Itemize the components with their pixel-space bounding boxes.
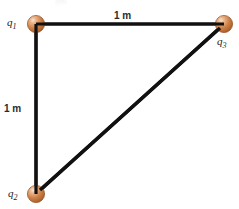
charge-label-q1: q1 bbox=[7, 17, 17, 31]
charge-label-q2: q2 bbox=[8, 188, 18, 202]
edge-overlay-q2-q3 bbox=[40, 28, 220, 190]
charge-label-q3-subscript: 3 bbox=[223, 41, 227, 50]
dimension-label-top: 1 m bbox=[114, 11, 131, 21]
charge-label-q2-subscript: 2 bbox=[14, 193, 18, 202]
diagram-canvas bbox=[0, 0, 239, 209]
edge-overlays bbox=[36, 24, 224, 194]
charge-triangle-diagram: q1 q2 q3 1 m 1 m bbox=[0, 0, 239, 209]
charge-label-q3: q3 bbox=[217, 36, 227, 50]
dimension-label-left: 1 m bbox=[4, 104, 21, 114]
charge-label-q1-subscript: 1 bbox=[13, 22, 17, 31]
